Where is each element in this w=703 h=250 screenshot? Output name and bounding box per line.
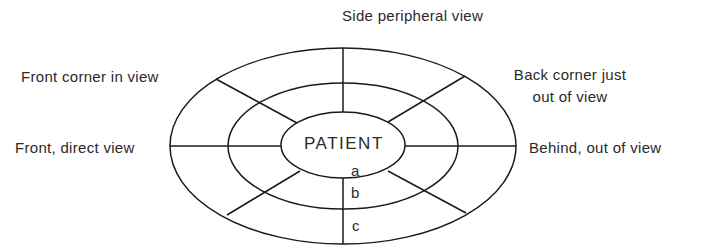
label-back-corner: Back corner just out of view <box>500 66 640 106</box>
field-of-view-diagram <box>0 0 703 250</box>
zone-b-label: b <box>351 185 359 201</box>
zone-c-label: c <box>352 218 360 234</box>
spoke-front-corner-bottom <box>227 171 300 215</box>
label-front-corner-in-view: Front corner in view <box>21 68 159 86</box>
zone-a-label: a <box>351 163 359 179</box>
patient-label: PATIENT <box>304 134 384 154</box>
spoke-back-corner-top <box>388 76 465 122</box>
label-back-corner-line2: out of view <box>500 88 640 106</box>
label-front-direct-view: Front, direct view <box>15 139 135 157</box>
label-behind-out-of-view: Behind, out of view <box>529 139 661 157</box>
spoke-front-corner-top <box>216 79 297 123</box>
label-back-corner-line1: Back corner just <box>500 66 640 84</box>
spoke-back-corner-bottom <box>388 171 466 213</box>
label-side-peripheral-view: Side peripheral view <box>342 7 483 25</box>
